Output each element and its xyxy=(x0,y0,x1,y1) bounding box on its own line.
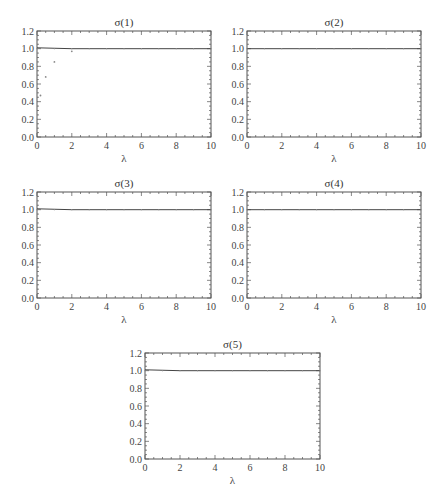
x-axis-label: λ xyxy=(331,152,337,164)
panel-sigma-2: σ(2)0.00.20.40.60.81.01.20246810λ xyxy=(217,13,433,169)
scatter-points xyxy=(40,50,73,96)
plot-svg: σ(2)0.00.20.40.60.81.01.20246810λ xyxy=(217,13,433,169)
x-tick-label: 2 xyxy=(279,140,284,151)
x-tick-label: 10 xyxy=(206,301,216,312)
x-tick-label: 10 xyxy=(206,140,216,151)
y-axis: 0.00.20.40.60.81.01.2 xyxy=(232,187,422,304)
y-tick-label: 1.2 xyxy=(22,187,35,198)
x-tick-label: 6 xyxy=(349,301,354,312)
y-tick-label: 0.4 xyxy=(22,96,35,107)
chart-title: σ(4) xyxy=(325,177,344,190)
x-tick-label: 0 xyxy=(245,140,250,151)
y-tick-label: 1.2 xyxy=(232,26,245,37)
x-tick-label: 6 xyxy=(349,140,354,151)
y-tick-label: 1.0 xyxy=(22,204,35,215)
x-tick-label: 6 xyxy=(248,462,253,473)
plot-svg: σ(3)0.00.20.40.60.81.01.20246810λ xyxy=(7,174,223,330)
y-tick-label: 0.2 xyxy=(130,436,143,447)
y-tick-label: 0.0 xyxy=(232,132,245,143)
x-tick-label: 10 xyxy=(416,301,426,312)
x-tick-label: 2 xyxy=(279,301,284,312)
x-axis-label: λ xyxy=(121,152,127,164)
x-tick-label: 2 xyxy=(69,301,74,312)
x-tick-label: 8 xyxy=(384,140,389,151)
plot-frame xyxy=(247,192,421,298)
y-axis: 0.00.20.40.60.81.01.2 xyxy=(130,348,321,465)
y-tick-label: 0.8 xyxy=(232,61,245,72)
y-tick-label: 1.0 xyxy=(232,43,245,54)
x-tick-label: 0 xyxy=(35,140,40,151)
panel-sigma-4: σ(4)0.00.20.40.60.81.01.20246810λ xyxy=(217,174,433,330)
x-tick-label: 10 xyxy=(315,462,325,473)
x-tick-label: 0 xyxy=(143,462,148,473)
panel-sigma-3: σ(3)0.00.20.40.60.81.01.20246810λ xyxy=(7,174,223,330)
x-tick-label: 8 xyxy=(384,301,389,312)
plot-frame xyxy=(37,192,211,298)
y-tick-label: 0.2 xyxy=(232,114,245,125)
x-tick-label: 6 xyxy=(139,301,144,312)
y-tick-label: 1.0 xyxy=(232,204,245,215)
x-tick-label: 0 xyxy=(245,301,250,312)
chart-title: σ(2) xyxy=(325,16,344,29)
plot-svg: σ(5)0.00.20.40.60.81.01.20246810λ xyxy=(115,335,332,491)
panel-sigma-1: σ(1)0.00.20.40.60.81.01.20246810λ xyxy=(7,13,223,169)
x-tick-label: 6 xyxy=(139,140,144,151)
x-tick-label: 10 xyxy=(416,140,426,151)
y-tick-label: 1.0 xyxy=(130,365,143,376)
y-tick-label: 0.6 xyxy=(22,79,35,90)
plot-frame xyxy=(145,353,320,459)
y-tick-label: 0.6 xyxy=(232,240,245,251)
y-tick-label: 0.4 xyxy=(130,418,143,429)
y-axis: 0.00.20.40.60.81.01.2 xyxy=(22,26,212,143)
y-tick-label: 0.4 xyxy=(232,96,245,107)
x-tick-label: 4 xyxy=(213,462,218,473)
y-tick-label: 0.6 xyxy=(22,240,35,251)
plot-frame xyxy=(37,31,211,137)
y-axis: 0.00.20.40.60.81.01.2 xyxy=(22,187,212,304)
y-tick-label: 0.0 xyxy=(22,293,35,304)
y-tick-label: 0.6 xyxy=(130,401,143,412)
plot-frame xyxy=(247,31,421,137)
x-tick-label: 4 xyxy=(314,301,319,312)
y-tick-label: 0.2 xyxy=(22,114,35,125)
y-tick-label: 0.0 xyxy=(232,293,245,304)
y-tick-label: 0.6 xyxy=(232,79,245,90)
chart-title: σ(3) xyxy=(115,177,134,190)
y-tick-label: 0.2 xyxy=(22,275,35,286)
x-tick-label: 4 xyxy=(314,140,319,151)
y-tick-label: 1.2 xyxy=(22,26,35,37)
x-tick-label: 8 xyxy=(174,301,179,312)
x-tick-label: 8 xyxy=(174,140,179,151)
y-axis: 0.00.20.40.60.81.01.2 xyxy=(232,26,422,143)
chart-title: σ(5) xyxy=(223,338,242,351)
y-tick-label: 1.0 xyxy=(22,43,35,54)
panel-sigma-5: σ(5)0.00.20.40.60.81.01.20246810λ xyxy=(115,335,332,491)
plot-svg: σ(4)0.00.20.40.60.81.01.20246810λ xyxy=(217,174,433,330)
plot-svg: σ(1)0.00.20.40.60.81.01.20246810λ xyxy=(7,13,223,169)
x-tick-label: 8 xyxy=(283,462,288,473)
y-tick-label: 0.4 xyxy=(22,257,35,268)
x-tick-label: 2 xyxy=(178,462,183,473)
y-tick-label: 0.2 xyxy=(232,275,245,286)
y-tick-label: 0.8 xyxy=(232,222,245,233)
y-tick-label: 0.8 xyxy=(22,61,35,72)
x-axis-label: λ xyxy=(331,313,337,325)
y-tick-label: 1.2 xyxy=(130,348,143,359)
y-tick-label: 1.2 xyxy=(232,187,245,198)
y-tick-label: 0.0 xyxy=(130,454,143,465)
x-axis-label: λ xyxy=(121,313,127,325)
x-tick-label: 4 xyxy=(104,301,109,312)
y-tick-label: 0.4 xyxy=(232,257,245,268)
y-tick-label: 0.0 xyxy=(22,132,35,143)
y-tick-label: 0.8 xyxy=(130,383,143,394)
x-tick-label: 4 xyxy=(104,140,109,151)
x-tick-label: 2 xyxy=(69,140,74,151)
chart-title: σ(1) xyxy=(115,16,134,29)
x-axis-label: λ xyxy=(230,474,236,486)
x-tick-label: 0 xyxy=(35,301,40,312)
y-tick-label: 0.8 xyxy=(22,222,35,233)
